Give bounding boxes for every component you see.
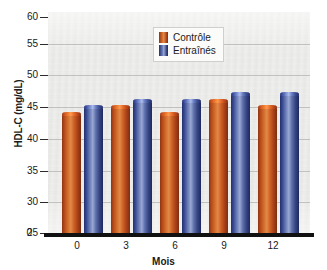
bar-cap-icon [280, 92, 299, 96]
y-tick-label-55: 55 [14, 39, 38, 49]
x-tick-label-6: 6 [160, 240, 190, 251]
bar-control-6 [160, 114, 179, 235]
y-tick-label-45: 45 [14, 102, 38, 112]
y-tick-label-35: 35 [14, 166, 38, 176]
bar-cap-icon [258, 105, 277, 109]
legend-swatch-control-icon [159, 32, 168, 43]
y-tick-45 [40, 107, 48, 108]
bar-cap-icon [182, 99, 201, 103]
bar-cap-icon [133, 99, 152, 103]
bar-trained-0 [84, 107, 103, 234]
bar-cap-icon [231, 92, 250, 96]
bar-control-3 [111, 107, 130, 234]
y-tick-label-50: 50 [14, 70, 38, 80]
x-axis-baseline [44, 233, 314, 237]
legend-item-entraines: Entraînés [159, 44, 216, 57]
bar-cap-icon [209, 99, 228, 103]
y-tick-label-60: 60 [14, 12, 38, 22]
bar-cap-icon [111, 105, 130, 109]
bar-control-12 [258, 107, 277, 234]
bar-trained-3 [133, 101, 152, 234]
bar-trained-9 [231, 94, 250, 234]
y-tick-35 [40, 171, 48, 172]
bar-trained-12 [280, 94, 299, 234]
gridline-50 [48, 75, 310, 76]
y-tick-55 [40, 44, 48, 45]
y-tick-label-40: 40 [14, 134, 38, 144]
plot-area: Contrôle Entraînés [48, 12, 310, 234]
bar-cap-icon [84, 105, 103, 109]
legend-item-controle: Contrôle [159, 31, 216, 44]
chart-figure: HDL-C (mg/dL) Contrôle Entr [0, 0, 327, 270]
bar-cap-icon [160, 112, 179, 116]
chart-legend: Contrôle Entraînés [153, 27, 224, 62]
bar-trained-6 [182, 101, 201, 234]
bar-control-9 [209, 101, 228, 234]
y-tick-30 [40, 202, 48, 203]
y-tick-50 [40, 75, 48, 76]
legend-label-controle: Contrôle [173, 32, 211, 43]
x-tick-label-12: 12 [258, 240, 288, 251]
x-tick-label-0: 0 [62, 240, 92, 251]
y-tick-label-30: 30 [14, 197, 38, 207]
y-tick-40 [40, 139, 48, 140]
legend-swatch-trained-icon [159, 45, 168, 56]
y-tick-label-zero: 0 [8, 228, 32, 238]
y-tick-60 [40, 17, 48, 18]
legend-label-entraines: Entraînés [173, 45, 216, 56]
x-tick-label-3: 3 [111, 240, 141, 251]
x-tick-label-9: 9 [209, 240, 239, 251]
bar-cap-icon [62, 112, 81, 116]
x-axis-title: Mois [0, 256, 327, 267]
bar-control-0 [62, 114, 81, 235]
